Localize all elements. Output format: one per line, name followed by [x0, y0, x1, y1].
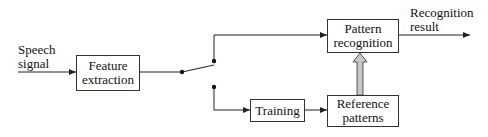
switch-pivot-dot: [180, 70, 184, 74]
output-label: Recognition result: [410, 6, 474, 34]
pattern-recognition-line1: Pattern: [345, 22, 382, 36]
output-label-line1: Recognition: [410, 6, 474, 20]
reference-patterns-line2: patterns: [342, 111, 383, 125]
input-label-line1: Speech: [18, 43, 56, 57]
feature-extraction-box: Feature extraction: [76, 55, 140, 91]
speech-recognition-diagram: Speech signal Recognition result Feature…: [0, 0, 488, 137]
recognition-path-arrow: [214, 35, 327, 61]
feature-extraction-line2: extraction: [82, 73, 134, 87]
feature-extraction-line1: Feature: [89, 59, 128, 73]
training-box: Training: [250, 99, 305, 122]
input-label-line2: signal: [18, 57, 56, 71]
output-label-line2: result: [410, 20, 474, 34]
training-label: Training: [255, 104, 299, 118]
input-label: Speech signal: [18, 43, 56, 71]
training-path-arrow: [214, 87, 250, 110]
switch-lever: [182, 65, 214, 72]
reference-feed-arrow: [353, 53, 367, 95]
reference-patterns-line1: Reference: [337, 97, 390, 111]
pattern-recognition-box: Pattern recognition: [327, 19, 399, 53]
pattern-recognition-line2: recognition: [333, 36, 392, 50]
reference-patterns-box: Reference patterns: [327, 95, 399, 127]
